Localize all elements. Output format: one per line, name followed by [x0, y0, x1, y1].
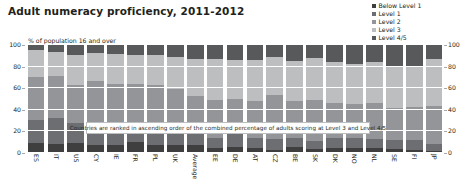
x-axis-tick-label: JP [431, 154, 437, 160]
bar-column[interactable] [346, 45, 363, 153]
grid-line [26, 66, 444, 67]
bar-segment [306, 100, 323, 141]
legend-item[interactable]: Level 2 [372, 18, 421, 26]
bar-segment [326, 62, 343, 103]
bar-column[interactable] [286, 45, 303, 153]
legend-swatch-icon [372, 4, 376, 8]
bar-column[interactable] [386, 45, 403, 153]
bar-column[interactable] [28, 45, 45, 153]
bar-segment [247, 138, 264, 148]
chart-title: Adult numeracy proficiency, 2011-2012 [8, 5, 244, 17]
bar-segment [406, 45, 423, 66]
x-axis-label-slot: IT [48, 154, 65, 192]
bar-column[interactable] [366, 45, 383, 153]
bar-segment [28, 77, 45, 119]
legend-item-label: Level 1 [379, 10, 401, 18]
bar-column[interactable] [107, 45, 124, 153]
bar-column[interactable] [306, 45, 323, 153]
legend-swatch-icon [372, 12, 376, 16]
plot-area [26, 45, 444, 153]
legend-item[interactable]: Level 1 [372, 10, 421, 18]
x-axis-label-slot: CY [87, 154, 104, 192]
bar-column[interactable] [227, 45, 244, 153]
y-axis-tick-mark [22, 110, 25, 111]
y-axis-tick-label: 100 [448, 42, 465, 48]
bar-column[interactable] [326, 45, 343, 153]
x-axis-tick-label: FR [133, 154, 139, 162]
x-axis-tick-label: AT [252, 154, 258, 162]
x-axis-tick-label: IE [113, 154, 119, 160]
x-axis-label-slot: AT [247, 154, 264, 192]
bar-column[interactable] [426, 45, 443, 153]
bar-segment [286, 61, 303, 101]
x-axis-label-slot: NO [346, 154, 363, 192]
x-axis-tick-label: CZ [272, 154, 278, 163]
x-axis-tick-label: DK [332, 154, 338, 163]
bar-segment [366, 62, 383, 103]
x-axis-tick-label: UK [172, 154, 178, 163]
bar-segment [147, 55, 164, 85]
bar-segment [386, 108, 403, 140]
bar-column[interactable] [87, 45, 104, 153]
bar-segment [127, 45, 144, 55]
y-axis-tick-mark [444, 67, 447, 68]
legend-swatch-icon [372, 36, 376, 40]
bar-segment [366, 45, 383, 62]
bar-column[interactable] [266, 45, 283, 153]
x-axis-tick-label: FI [411, 154, 417, 159]
x-axis-tick-label: ES [33, 154, 39, 162]
bar-segment [87, 53, 104, 81]
x-axis-labels: ESITUSCYIEFRPLUKAverageEEDEATCZBESKDKNON… [26, 154, 444, 192]
bar-group [26, 45, 444, 153]
bar-segment [167, 45, 184, 57]
x-axis-label-slot: Average [187, 154, 204, 192]
bar-column[interactable] [127, 45, 144, 153]
y-axis-tick-label: 60 [4, 85, 21, 91]
bar-column[interactable] [167, 45, 184, 153]
bar-column[interactable] [187, 45, 204, 153]
bar-segment [326, 138, 343, 148]
bar-column[interactable] [67, 45, 84, 153]
y-axis-tick-mark [22, 67, 25, 68]
bar-segment [48, 118, 65, 144]
bar-segment [386, 140, 403, 149]
x-axis-label-slot: BE [286, 154, 303, 192]
bar-segment [266, 139, 283, 150]
bar-column[interactable] [406, 45, 423, 153]
y-axis-tick-label: 60 [448, 85, 465, 91]
bar-column[interactable] [147, 45, 164, 153]
legend-swatch-icon [372, 20, 376, 24]
bar-segment [286, 45, 303, 61]
chart-legend: Below Level 1Level 1Level 2Level 3Level … [372, 2, 421, 42]
x-axis-label-slot: SK [306, 154, 323, 192]
bar-segment [346, 45, 363, 64]
chart-container: Adult numeracy proficiency, 2011-2012 Be… [0, 0, 469, 193]
y-axis-tick-label: 80 [4, 64, 21, 70]
x-axis-label-slot: ES [28, 154, 45, 192]
bar-segment [28, 120, 45, 144]
bar-column[interactable] [247, 45, 264, 153]
x-axis-label-slot: JP [426, 154, 443, 192]
bar-segment [167, 57, 184, 89]
annotation-text: Countries are ranked in ascending order … [70, 125, 386, 131]
x-axis-label-slot: FI [406, 154, 423, 192]
legend-item[interactable]: Below Level 1 [372, 2, 421, 10]
bar-segment [306, 141, 323, 149]
bar-segment [107, 84, 124, 125]
legend-item[interactable]: Level 4/5 [372, 34, 421, 42]
bar-column[interactable] [48, 45, 65, 153]
x-axis-tick-label: CY [93, 154, 99, 162]
bar-segment [127, 55, 144, 84]
legend-item[interactable]: Level 3 [372, 26, 421, 34]
x-axis-tick-label: DE [232, 154, 238, 163]
y-axis-tick-label: 40 [4, 107, 21, 113]
bar-column[interactable] [207, 45, 224, 153]
x-axis-label-slot: UK [167, 154, 184, 192]
y-axis-tick-mark [444, 153, 447, 154]
grid-line [26, 152, 444, 153]
x-axis-label-slot: NL [366, 154, 383, 192]
grid-line [26, 109, 444, 110]
bar-segment [207, 138, 224, 148]
y-axis-tick-mark [22, 131, 25, 132]
x-axis-label-slot: FR [127, 154, 144, 192]
